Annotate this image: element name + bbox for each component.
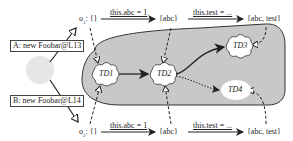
top-transition-1-label: this.abc = 1 [110,9,147,17]
allocation-blob [26,56,54,84]
td4-label: TD4 [228,86,242,94]
object-o1: o1: {} [79,15,97,25]
top-state-2: {abc, test} [247,15,281,23]
td1-label: TD1 [99,70,113,78]
allocation-b-label: B: new Foobar@L14 [10,95,84,107]
top-transition-2-label: this.test = ... [193,9,232,17]
bottom-state-1: {abc} [159,128,178,136]
bottom-state-2: {abc, test} [247,128,281,136]
td3-label: TD3 [233,42,247,50]
bottom-transition-1-label: this.abc = 1 [110,122,147,130]
bottom-transition-2-label: this.test = ... [193,122,232,130]
object-o2: o2: {} [79,128,97,138]
td2-label: TD2 [157,70,171,78]
allocation-a-label: A: new Foobar@L13 [10,40,84,52]
top-state-1: {abc} [159,15,178,23]
